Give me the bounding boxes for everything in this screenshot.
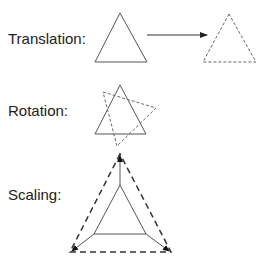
translation-original-triangle [95,13,147,62]
translation-label: Translation: [8,30,86,47]
scaling-label: Scaling: [8,186,61,203]
translation-moved-triangle [203,14,256,62]
transformations-diagram: Translation: Rotation: Scaling: [0,0,266,261]
scaling-section: Scaling: [8,154,171,252]
rotation-section: Rotation: [8,85,156,146]
rotation-rotated-triangle [103,92,156,146]
translation-section: Translation: [8,13,256,62]
scaling-original-triangle [94,185,146,234]
scaling-vector-left-icon [72,234,94,251]
rotation-label: Rotation: [8,102,68,119]
